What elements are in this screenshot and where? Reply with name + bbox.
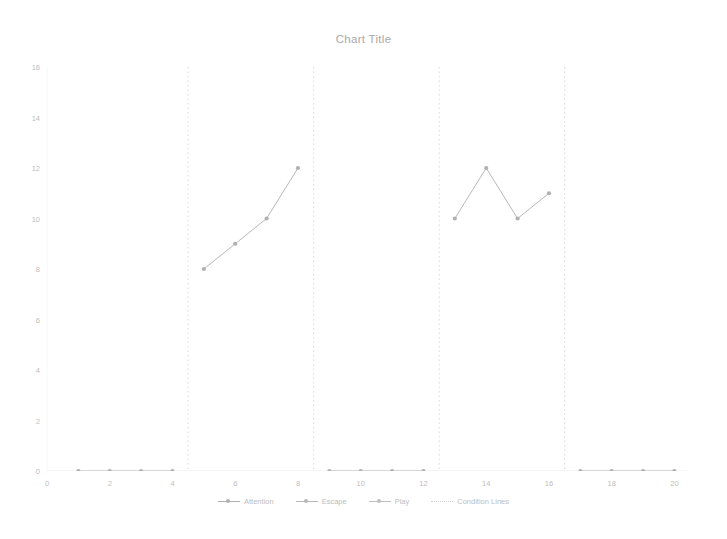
- data-point-marker: [76, 469, 80, 471]
- chart-legend: AttentionEscapePlayCondition Lines: [0, 497, 727, 506]
- data-point-marker: [202, 267, 206, 271]
- series-line: [204, 168, 298, 269]
- y-axis-tick-label: 6: [36, 315, 47, 324]
- data-point-marker: [233, 242, 237, 246]
- condition-lines-group: [188, 67, 564, 471]
- x-axis-tick-label: 2: [108, 471, 112, 488]
- series-line: [455, 168, 549, 219]
- data-point-marker: [484, 166, 488, 170]
- x-axis-tick-label: 10: [357, 471, 365, 488]
- data-point-marker: [578, 469, 582, 471]
- data-point-marker: [139, 469, 143, 471]
- data-point-marker: [265, 216, 269, 220]
- data-point-marker: [296, 166, 300, 170]
- legend-item[interactable]: Attention: [218, 497, 274, 506]
- dotted-line-icon: [431, 498, 453, 506]
- x-axis-tick-label: 8: [296, 471, 300, 488]
- data-point-marker: [390, 469, 394, 471]
- data-point-marker: [327, 469, 331, 471]
- legend-marker: [226, 499, 230, 503]
- y-axis-tick-label: 2: [36, 416, 47, 425]
- legend-line: [431, 501, 453, 502]
- series-group: [76, 166, 676, 471]
- x-axis-tick-label: 0: [45, 471, 49, 488]
- y-axis-tick-label: 12: [32, 164, 47, 173]
- x-axis-tick-label: 4: [170, 471, 174, 488]
- legend-label: Attention: [244, 497, 274, 506]
- legend-label: Play: [395, 497, 410, 506]
- legend-item[interactable]: Escape: [296, 497, 347, 506]
- x-axis-tick-label: 12: [419, 471, 427, 488]
- data-point-marker: [453, 216, 457, 220]
- chart-container: Chart Title 0246810121416 02468101214161…: [0, 0, 727, 539]
- y-axis-tick-label: 8: [36, 265, 47, 274]
- plot-svg: [47, 67, 687, 471]
- x-axis-tick-label: 16: [545, 471, 553, 488]
- x-axis-tick-label: 14: [482, 471, 490, 488]
- line-marker-icon: [369, 498, 391, 506]
- data-point-marker: [547, 191, 551, 195]
- legend-marker: [304, 499, 308, 503]
- data-point-marker: [641, 469, 645, 471]
- legend-item[interactable]: Play: [369, 497, 410, 506]
- line-marker-icon: [296, 498, 318, 506]
- chart-title: Chart Title: [0, 33, 727, 45]
- x-axis-tick-label: 6: [233, 471, 237, 488]
- legend-marker: [377, 499, 381, 503]
- plot-area: 0246810121416 02468101214161820: [47, 67, 687, 471]
- y-axis-tick-label: 14: [32, 113, 47, 122]
- axis-group: [47, 67, 687, 471]
- x-axis-tick-label: 20: [670, 471, 678, 488]
- legend-label: Escape: [322, 497, 347, 506]
- legend-item[interactable]: Condition Lines: [431, 497, 509, 506]
- line-marker-icon: [218, 498, 240, 506]
- y-axis-tick-label: 16: [32, 63, 47, 72]
- legend-label: Condition Lines: [457, 497, 509, 506]
- y-axis-tick-label: 4: [36, 366, 47, 375]
- y-axis-tick-label: 10: [32, 214, 47, 223]
- data-point-marker: [515, 216, 519, 220]
- x-axis-tick-label: 18: [608, 471, 616, 488]
